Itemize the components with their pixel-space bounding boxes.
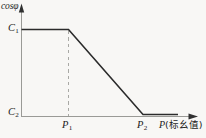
plot-canvas: [0, 0, 206, 138]
x-tick-label-p2: P2: [137, 120, 147, 131]
x-tick-p2-symbol: P: [137, 119, 143, 130]
y-tick-c1-symbol: C: [8, 22, 15, 33]
y-tick-c1-subscript: 1: [15, 27, 19, 35]
y-axis-arrowhead: [19, 4, 24, 13]
figure-container: cosφ C1 C2 P1 P2 P(标幺值): [0, 0, 206, 138]
y-tick-c2-symbol: C: [8, 106, 15, 117]
x-tick-p2-subscript: 2: [144, 124, 148, 132]
x-axis-title: P(标幺值): [159, 120, 203, 130]
y-tick-label-c2: C2: [8, 107, 19, 118]
x-tick-p1-subscript: 1: [69, 124, 73, 132]
x-tick-p1-symbol: P: [62, 119, 68, 130]
y-tick-c2-subscript: 2: [15, 111, 19, 119]
y-axis-title: cosφ: [1, 2, 18, 12]
x-axis-title-unit: (标幺值): [165, 119, 202, 130]
y-tick-label-c1: C1: [8, 23, 19, 34]
droop-characteristic-curve: [22, 30, 179, 115]
x-tick-label-p1: P1: [62, 120, 72, 131]
